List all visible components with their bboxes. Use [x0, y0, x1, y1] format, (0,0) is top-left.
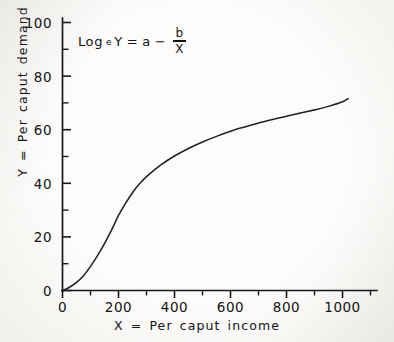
x-tick-label-0: 0: [45, 299, 80, 315]
demand-curve: [63, 99, 349, 291]
y-axis-title: Y = Per caput demand: [15, 0, 30, 202]
x-tick-label-800: 800: [266, 299, 307, 315]
y-tick-label-20: 20: [18, 229, 52, 245]
equation-denominator: X: [173, 43, 186, 55]
equation-minus: −: [155, 34, 167, 49]
equation-coefficient-a: a: [142, 34, 151, 49]
equation-log-subscript: e: [106, 37, 112, 47]
x-axis-title: X = Per caput income: [0, 318, 394, 333]
equation-annotation: Loge Y = a − b X: [78, 28, 186, 56]
y-tick-label-0: 0: [18, 283, 52, 299]
equation-fraction: b X: [173, 27, 186, 55]
equation-numerator: b: [174, 27, 186, 39]
equation-equals: =: [127, 34, 139, 49]
x-tick-label-600: 600: [210, 299, 251, 315]
y-axis-minor-ticks: [63, 49, 69, 263]
chart-figure: 100 80 60 40 20 0 0 200 400 600 800 1000…: [0, 0, 394, 342]
plot-canvas: [0, 0, 394, 342]
x-tick-label-1000: 1000: [318, 299, 367, 315]
x-tick-label-400: 400: [154, 299, 195, 315]
x-tick-label-200: 200: [98, 299, 139, 315]
equation-log-text: Log: [78, 34, 103, 49]
equation-variable-y: Y: [114, 34, 123, 49]
